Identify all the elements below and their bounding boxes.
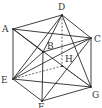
vertex-h-point [61,65,63,67]
vertex-e-point [12,78,14,80]
edge-fg [42,87,91,101]
vertex-label-a: A [1,24,9,34]
cube-diagram: ABCDEFGH [0,0,102,108]
edge-bf [42,52,43,101]
vertex-label-b: B [47,41,54,51]
vertex-g-point [90,86,92,88]
vertex-d-point [61,14,63,16]
vertex-label-d: D [58,2,65,12]
vertex-label-c: C [94,34,101,44]
edge-eg [13,79,91,87]
vertex-label-g: G [92,90,99,100]
solid-edges [13,15,91,101]
vertex-label-f: F [38,102,44,108]
edge-ad [13,15,62,29]
vertex-a-point [12,28,14,30]
vertex-label-h: H [65,54,73,64]
vertex-label-e: E [1,75,8,85]
edge-ef [13,79,42,101]
vertex-c-point [90,37,92,39]
vertex-b-point [42,51,44,53]
edge-ac [13,29,91,38]
